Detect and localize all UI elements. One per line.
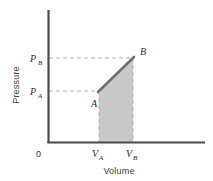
y-tick-label-pb: P B [29,53,43,67]
x-tick-label-vb: V B [126,148,138,162]
work-area-shading [99,58,133,142]
y-axis-label: Pressure [11,66,21,104]
y-tick-label-pa: P A [29,86,43,100]
point-label-b: B [140,46,146,57]
y-tick-pa-sub: A [37,92,43,100]
x-tick-label-va: V A [92,148,104,162]
pv-diagram-figure: P B P A V A V B A B 0 Volume Pressure [0,0,213,181]
x-axis-label: Volume [103,166,134,176]
y-tick-pb-var: P [29,53,36,64]
origin-label: 0 [36,149,41,159]
x-tick-vb-sub: B [133,154,138,162]
y-tick-pa-var: P [29,86,36,97]
pv-diagram-svg: P B P A V A V B A B 0 Volume Pressure [0,0,213,181]
y-tick-pb-sub: B [38,59,43,67]
point-label-a: A [90,98,98,109]
x-tick-va-sub: A [98,154,104,162]
